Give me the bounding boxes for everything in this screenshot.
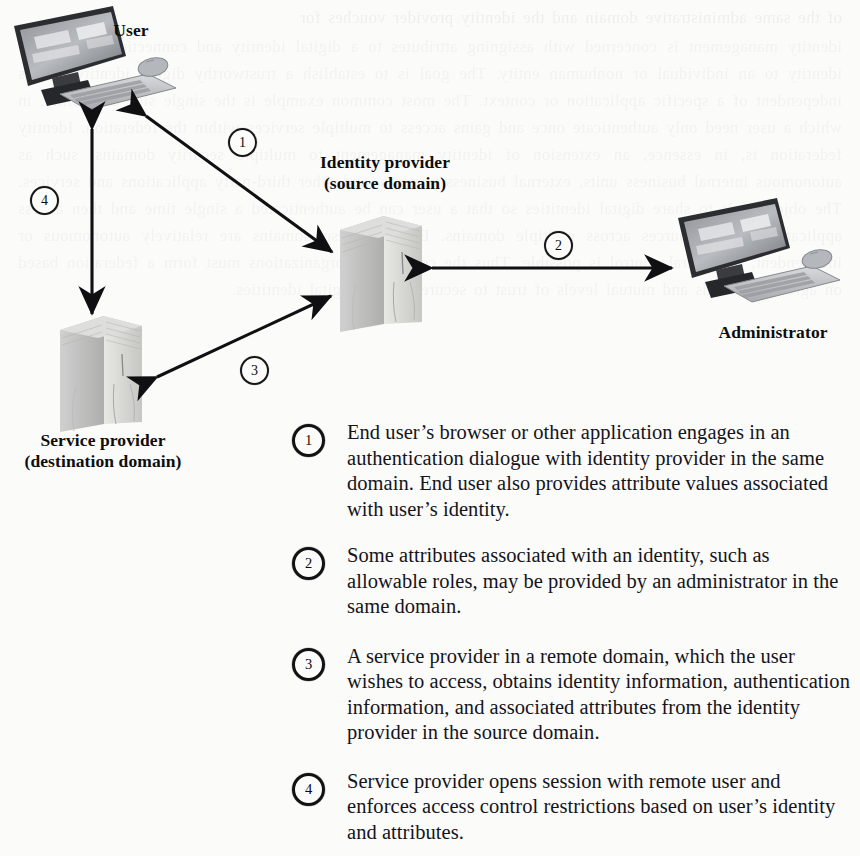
legend-text-1: End user’s browser or other application … xyxy=(347,420,852,522)
step-marker-2-text: 2 xyxy=(555,238,562,254)
legend-bullet-2-text: 2 xyxy=(305,556,312,571)
legend-item: 3 A service provider in a remote domain,… xyxy=(292,644,852,746)
step-marker-2: 2 xyxy=(544,231,573,260)
legend-item: 4 Service provider opens session with re… xyxy=(292,769,852,846)
step-marker-1-text: 1 xyxy=(239,135,246,151)
legend-bullet-3-text: 3 xyxy=(305,657,312,672)
legend-bullet-1: 1 xyxy=(292,424,325,457)
legend-text-3: A service provider in a remote domain, w… xyxy=(347,644,852,746)
legend-text-2: Some attributes associated with an ident… xyxy=(347,543,852,620)
legend-item: 2 Some attributes associated with an ide… xyxy=(292,543,852,620)
figure-page: of the same administrative domain and th… xyxy=(0,0,860,856)
step-marker-3: 3 xyxy=(240,356,269,385)
legend-bullet-1-text: 1 xyxy=(305,433,312,448)
legend-bullet-4-text: 4 xyxy=(305,782,312,797)
legend: 1 End user’s browser or other applicatio… xyxy=(292,420,852,845)
legend-text-4: Service provider opens session with remo… xyxy=(347,769,852,846)
step-marker-1: 1 xyxy=(228,128,257,157)
legend-bullet-3: 3 xyxy=(292,648,325,681)
step-marker-3-text: 3 xyxy=(251,363,258,379)
legend-bullet-4: 4 xyxy=(292,773,325,806)
step-marker-4: 4 xyxy=(30,186,59,215)
legend-item: 1 End user’s browser or other applicatio… xyxy=(292,420,852,522)
legend-bullet-2: 2 xyxy=(292,547,325,580)
step-marker-4-text: 4 xyxy=(41,193,48,209)
